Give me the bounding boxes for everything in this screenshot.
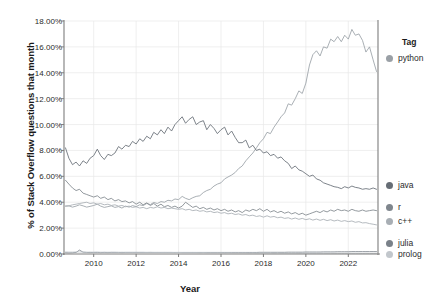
y-tick-label: 4.00% (18, 198, 62, 207)
legend-swatch-icon (386, 251, 393, 258)
x-tick-label: 2012 (116, 259, 156, 268)
legend: Tagpythonjavarc++juliaprolog (384, 0, 445, 305)
y-tick-label: 6.00% (18, 172, 62, 181)
x-tick-label: 2018 (243, 259, 283, 268)
legend-label: c++ (398, 216, 412, 227)
legend-label: julia (398, 238, 413, 249)
y-tick-label: 2.00% (18, 224, 62, 233)
y-tick-label: 8.00% (18, 146, 62, 155)
x-tick-label: 2016 (201, 259, 241, 268)
legend-label: python (398, 53, 424, 64)
legend-swatch-icon (386, 204, 393, 211)
x-tick-label: 2014 (159, 259, 199, 268)
y-tick-label: 14.00% (18, 68, 62, 77)
legend-label: java (398, 180, 414, 191)
x-axis-tick-labels: 2010201220142016201820202022 (0, 259, 445, 273)
legend-swatch-icon (386, 240, 393, 247)
legend-label: r (398, 202, 401, 213)
legend-swatch-icon (386, 218, 393, 225)
plot-area (64, 21, 378, 254)
y-tick-label: 16.00% (18, 42, 62, 51)
legend-title: Tag (402, 37, 416, 47)
y-tick-label: 10.00% (18, 120, 62, 129)
y-tick-label: 18.00% (18, 17, 62, 26)
legend-label: prolog (398, 249, 422, 260)
y-tick-label: 0.00% (18, 250, 62, 259)
x-axis-title: Year (0, 283, 380, 294)
legend-swatch-icon (386, 55, 393, 62)
legend-swatch-icon (386, 182, 393, 189)
x-tick-label: 2010 (74, 259, 114, 268)
chart-figure: % of Stack Overflow questions that month… (0, 0, 445, 305)
x-tick-label: 2020 (286, 259, 326, 268)
x-tick-label: 2022 (328, 259, 368, 268)
y-tick-label: 12.00% (18, 94, 62, 103)
